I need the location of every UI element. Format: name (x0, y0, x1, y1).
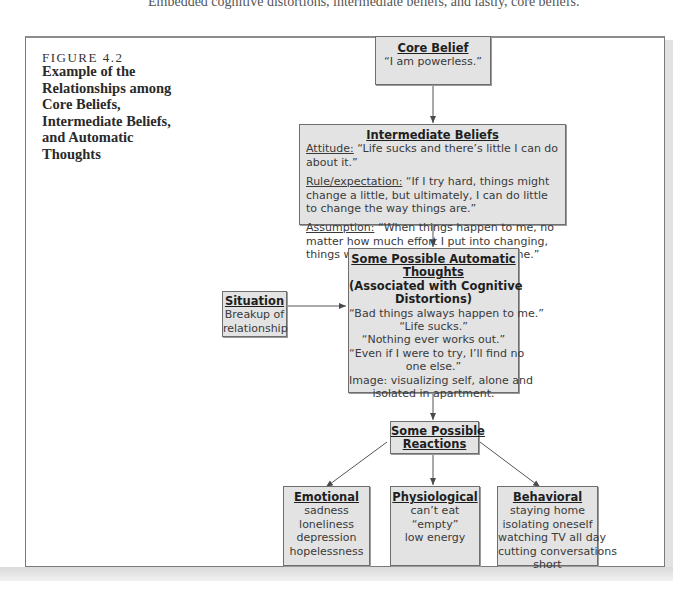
automatic-thought: isolated in apartment. (349, 387, 518, 400)
automatic-thought: “Bad things always happen to me.” (349, 307, 518, 320)
automatic-thought: “Nothing ever works out.” (349, 333, 518, 346)
situation-box: Situation Breakup of relationship (222, 291, 287, 337)
behavioral-box: Behavioral staying home isolating onesel… (497, 486, 598, 566)
behavioral-title: Behavioral (498, 491, 597, 504)
core-belief-text: “I am powerless.” (376, 55, 490, 68)
intermediate-beliefs-box: Intermediate Beliefs Attitude: “Life suc… (299, 124, 566, 225)
emotional-title: Emotional (284, 491, 369, 504)
rule-expectation-belief: Rule/expectation: “If I try hard, things… (306, 175, 559, 215)
automatic-thought: Image: visualizing self, alone and (349, 374, 518, 387)
situation-title: Situation (223, 295, 286, 308)
core-belief-box: Core Belief “I am powerless.” (375, 36, 491, 85)
attitude-belief: Attitude: “Life sucks and there’s little… (306, 142, 559, 169)
emotional-box: Emotional sadness loneliness depression … (283, 486, 370, 566)
physiological-box: Physiological can’t eat “empty” low ener… (390, 486, 480, 566)
reactions-box: Some Possible Reactions (390, 421, 479, 454)
automatic-thought: “Life sucks.” (349, 320, 518, 333)
physiological-title: Physiological (391, 491, 479, 504)
intermediate-beliefs-title: Intermediate Beliefs (306, 129, 559, 142)
automatic-thought: one else.” (349, 360, 518, 373)
automatic-thought: “Even if I were to try, I’ll find no (349, 347, 518, 360)
core-belief-title: Core Belief (376, 42, 490, 55)
automatic-thoughts-box: Some Possible Automatic Thoughts (Associ… (348, 248, 519, 393)
